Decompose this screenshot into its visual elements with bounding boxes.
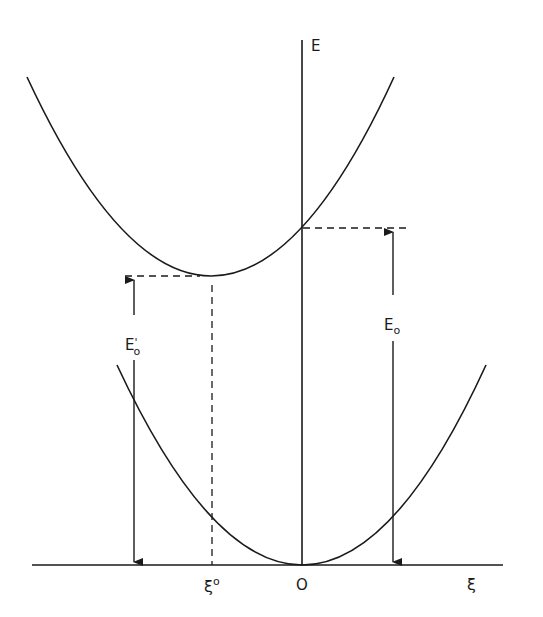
energy-diagram: E ξ O ξo Eo E'o [0, 0, 543, 617]
upper-parabola [27, 77, 394, 276]
origin-label: O [296, 576, 308, 594]
x-axis-label: ξ [467, 575, 476, 594]
E0-label: Eo [384, 316, 400, 337]
y-axis-label: E [311, 37, 320, 55]
xi-zero-label: ξo [204, 575, 220, 596]
E0prime-label: E'o [125, 336, 141, 358]
